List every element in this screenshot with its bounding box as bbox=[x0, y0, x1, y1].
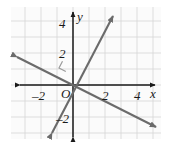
x-tick-label-neg2: –2 bbox=[32, 89, 45, 102]
x-tick-label-2: 2 bbox=[102, 89, 109, 102]
x-tick-label-4: 4 bbox=[134, 89, 141, 102]
y-tick-label-4: 4 bbox=[59, 17, 66, 30]
y-tick-label-2: 2 bbox=[59, 47, 66, 60]
origin-label: O bbox=[61, 87, 70, 100]
y-tick-label-neg2: –2 bbox=[56, 112, 69, 125]
coordinate-plane-figure: –2 2 4 4 2 –2 O x y bbox=[0, 0, 170, 145]
right-angle-marker bbox=[59, 61, 66, 71]
y-axis-label: y bbox=[77, 10, 83, 23]
x-axis-label: x bbox=[150, 87, 156, 100]
plotted-lines bbox=[0, 0, 170, 145]
